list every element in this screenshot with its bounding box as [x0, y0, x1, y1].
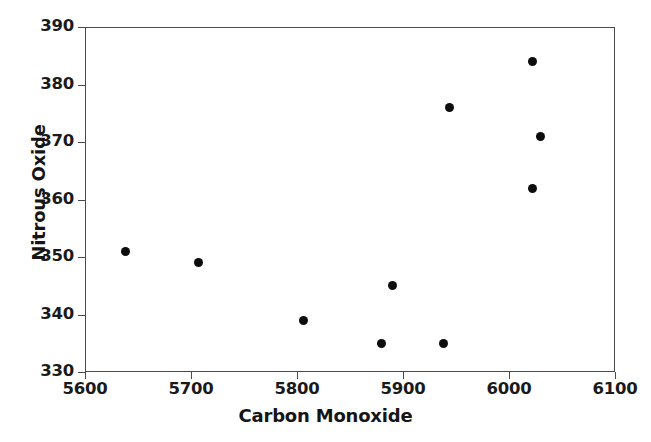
x-tick-label-6000: 6000: [486, 379, 531, 398]
y-tick-label-340: 340: [22, 304, 74, 323]
y-tick-label-390: 390: [22, 16, 74, 35]
y-tick-330: [78, 372, 85, 373]
x-tick-6000: [509, 372, 510, 379]
x-tick-5900: [403, 372, 404, 379]
y-tick-360: [78, 200, 85, 201]
x-tick-6100: [615, 372, 616, 379]
x-tick-label-6100: 6100: [592, 379, 637, 398]
y-tick-label-380: 380: [22, 74, 74, 93]
y-tick-370: [78, 142, 85, 143]
x-tick-label-5700: 5700: [168, 379, 213, 398]
y-tick-390: [78, 27, 85, 28]
y-axis-title: Nitrous Oxide: [28, 93, 49, 293]
x-axis-title: Carbon Monoxide: [0, 405, 651, 426]
plot-area-frame: [85, 27, 615, 372]
x-tick-label-5600: 5600: [62, 379, 107, 398]
x-tick-5800: [297, 372, 298, 379]
scatter-plot: 330340350360370380390 560057005800590060…: [0, 0, 651, 442]
y-tick-label-330: 330: [22, 361, 74, 380]
x-tick-5700: [191, 372, 192, 379]
y-tick-380: [78, 85, 85, 86]
x-tick-label-5800: 5800: [274, 379, 319, 398]
x-tick-5600: [85, 372, 86, 379]
x-tick-label-5900: 5900: [380, 379, 425, 398]
y-tick-350: [78, 257, 85, 258]
y-tick-340: [78, 315, 85, 316]
